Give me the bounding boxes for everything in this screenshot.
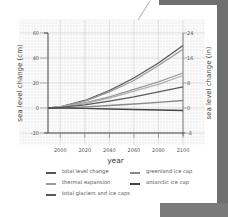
y-right-tick-label: 8 — [187, 80, 190, 86]
x-tick-label: 2020 — [78, 147, 91, 153]
legend-swatch — [130, 172, 140, 174]
legend-label: total level change — [62, 168, 109, 174]
x-tick-label: 2040 — [103, 147, 116, 153]
legend-item-antarctic-ice-cap: antarctic ice cap — [130, 179, 189, 185]
y-axis-label: sea level change (cm) — [16, 44, 24, 122]
legend-swatch — [130, 183, 140, 185]
legend-swatch — [46, 194, 56, 196]
x-tick-label: 2080 — [152, 147, 165, 153]
pen-streak — [138, 1, 150, 20]
x-tick-label: 2000 — [54, 147, 67, 153]
legend-swatch — [46, 183, 56, 185]
x-axis-label: year — [107, 156, 125, 165]
legend-swatch — [46, 172, 56, 174]
y-right-tick-label: 24 — [187, 30, 193, 36]
legend-item-total-glaciers-and-ice-caps: total glaciers and ice caps — [46, 190, 130, 196]
y-tick-label: 60 — [33, 30, 39, 36]
legend-label: thermal expansion — [62, 179, 110, 185]
x-tick-label: 2060 — [128, 147, 141, 153]
legend-label: antarctic ice cap — [146, 179, 189, 185]
y-tick-label: -20 — [31, 130, 39, 136]
legend-label: total glaciers and ice caps — [62, 190, 130, 196]
legend-item-greenland-ice-cap: greenland ice cap — [130, 168, 192, 174]
y-right-tick-label: 16 — [187, 55, 193, 61]
y-right-tick-label: -8 — [187, 130, 192, 136]
legend-label: greenland ice cap — [146, 168, 192, 174]
y-right-tick-label: 0 — [187, 105, 190, 111]
y-tick-label: 40 — [33, 55, 39, 61]
y-tick-label: 0 — [36, 105, 39, 111]
legend-item-thermal-expansion: thermal expansion — [46, 179, 110, 185]
y-tick-label: 20 — [33, 80, 39, 86]
legend-item-total-level-change: total level change — [46, 168, 109, 174]
chart-legend: total level change thermal expansion tot… — [46, 168, 216, 202]
y-right-axis-label: sea level change (in) — [205, 46, 213, 119]
x-tick-label: 2100 — [177, 147, 190, 153]
